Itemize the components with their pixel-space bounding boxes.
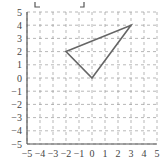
y-tick-label: −3 [11,112,22,123]
y-tick-label: 2 [17,46,22,57]
coordinate-grid-chart: −5−4−3−2−1012345 543210−1−2−3−4−5 [0,0,161,161]
x-tick-label: 3 [129,148,134,159]
x-tick-label: −5 [22,148,33,159]
x-tick-label: −2 [61,148,72,159]
x-tick-label: 2 [116,148,121,159]
x-tick-label: 1 [103,148,108,159]
y-tick-label: −4 [11,125,22,136]
x-tick-label: 5 [155,148,160,159]
top-bracket [35,2,84,7]
y-tick-label: 0 [17,73,22,84]
y-tick-label: −2 [11,99,22,110]
y-tick-label: −5 [11,139,22,150]
x-tick-label: 0 [90,148,95,159]
x-tick-label: −4 [35,148,46,159]
x-tick-labels: −5−4−3−2−1012345 [22,148,160,159]
y-tick-labels: 543210−1−2−3−4−5 [11,7,22,150]
x-tick-label: −1 [74,148,85,159]
x-tick-label: −3 [48,148,59,159]
y-tick-label: −1 [11,86,22,97]
y-tick-label: 1 [17,59,22,70]
y-tick-label: 3 [17,33,22,44]
y-tick-label: 4 [17,20,22,31]
y-tick-label: 5 [17,7,22,18]
x-tick-label: 4 [142,148,147,159]
